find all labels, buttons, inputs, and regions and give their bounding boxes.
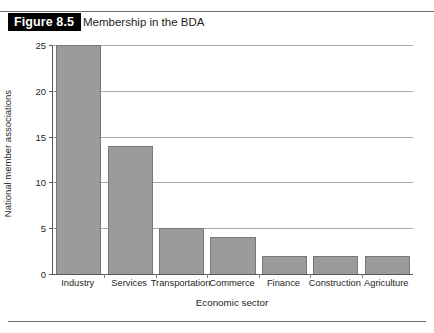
bar-services (108, 146, 153, 274)
bar-agriculture (365, 256, 410, 274)
y-axis-tick (49, 182, 53, 183)
x-axis-label-industry: Industry (61, 278, 94, 288)
y-axis-tick-label: 20 (35, 85, 46, 96)
y-axis-tick (49, 91, 53, 92)
y-axis-tick (49, 137, 53, 138)
x-axis-label-commerce: Commerce (209, 278, 254, 288)
x-axis-title: Economic sector (52, 297, 412, 308)
x-axis-label-services: Services (111, 278, 147, 288)
bar-chart: National member associations 0510152025 … (0, 31, 434, 319)
x-axis-label-construction: Construction (309, 278, 361, 288)
figure-header: Figure 8.5 Membership in the BDA (0, 11, 434, 31)
x-axis-category-labels: IndustryServicesTransportationCommerceFi… (52, 278, 412, 294)
x-axis-label-finance: Finance (267, 278, 300, 288)
y-axis-tick-label: 25 (35, 40, 46, 51)
y-axis-tick-label: 10 (35, 177, 46, 188)
figure-bottom-rule (8, 321, 426, 322)
bar-commerce (210, 237, 255, 274)
x-axis-label-transportation: Transportation (151, 278, 211, 288)
x-axis-label-agriculture: Agriculture (364, 278, 408, 288)
bar-industry (56, 45, 101, 274)
y-axis-tick (49, 45, 53, 46)
y-axis-tick (49, 274, 53, 275)
bar-construction (313, 256, 358, 274)
bar-transportation (159, 228, 204, 274)
figure-number-badge: Figure 8.5 (8, 13, 81, 31)
plot-area: 0510152025 (52, 45, 413, 275)
figure-caption: Membership in the BDA (83, 13, 204, 31)
y-axis-tick (49, 228, 53, 229)
bar-finance (262, 256, 307, 274)
y-axis-tick-label: 5 (41, 223, 46, 234)
y-axis-title-label: National member associations (3, 90, 14, 217)
gridline (53, 45, 413, 46)
y-axis-title: National member associations (0, 31, 16, 276)
y-axis-tick-label: 15 (35, 131, 46, 142)
gridline (53, 91, 413, 92)
y-axis-tick-label: 0 (41, 269, 46, 280)
x-axis-title-label: Economic sector (196, 297, 268, 308)
gridline (53, 137, 413, 138)
